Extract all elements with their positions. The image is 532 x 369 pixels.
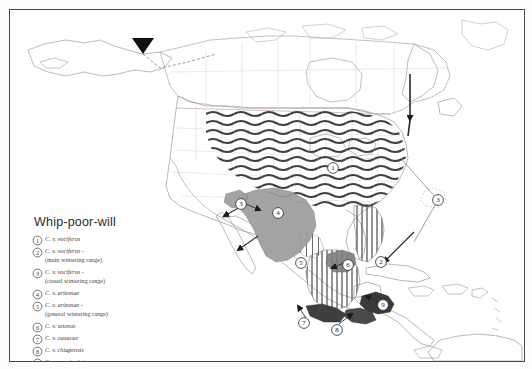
legend-label-4: C. v. arizonae: [45, 289, 79, 298]
legend-label-8: C. v. chiapensis: [45, 346, 84, 355]
legend-sublabel-2: (main wintering range): [45, 256, 102, 265]
legend-number-circle-2: 2: [32, 248, 45, 257]
map-marker-6: 6: [343, 260, 354, 271]
svg-text:4: 4: [36, 292, 39, 298]
legend-number-circle-5: 5: [32, 302, 45, 311]
map-marker-3b: 3: [236, 199, 247, 210]
legend-item-9: 9C. v. vermiculatus: [32, 358, 182, 362]
map-marker-label-9: 9: [381, 301, 385, 309]
legend-label-5: C. v. arizonae -(general wintering range…: [45, 301, 108, 318]
legend-label-2: C. v. vociferus -(main wintering range): [45, 247, 102, 264]
legend-title: Whip-poor-will: [34, 215, 182, 229]
map-marker-label-3b: 3: [239, 200, 243, 208]
map-marker-label-3: 3: [436, 196, 440, 204]
map-marker-label-1: 1: [331, 164, 335, 172]
map-marker-label-2: 2: [379, 258, 383, 266]
svg-text:3: 3: [36, 271, 39, 277]
legend-number-circle-1: 1: [32, 236, 45, 245]
map-marker-label-7: 7: [302, 319, 306, 327]
svg-text:7: 7: [36, 337, 39, 343]
map-marker-4: 4: [273, 208, 284, 219]
legend-item-3: 3C. v. vociferus -(casual wintering rang…: [32, 268, 182, 288]
legend-label-3: C. v. vociferus -(casual wintering range…: [45, 268, 105, 285]
legend-label-6: C. v. setosus: [45, 322, 75, 331]
svg-text:5: 5: [36, 304, 39, 310]
map-marker-9: 9: [378, 300, 389, 311]
legend-item-7: 7C. v. oaxacae: [32, 334, 182, 345]
legend-item-2: 2C. v. vociferus -(main wintering range): [32, 247, 182, 267]
map-marker-label-5: 5: [299, 259, 303, 267]
legend-number-circle-9: 9: [32, 359, 45, 362]
legend-label-9: C. v. vermiculatus: [45, 358, 90, 362]
svg-text:1: 1: [36, 238, 39, 244]
map-marker-1: 1: [328, 163, 339, 174]
whip-poor-will-range-map: 1234567893 Whip-poor-will 1C. v. vocifer…: [0, 0, 532, 369]
map-marker-2: 2: [376, 257, 387, 268]
map-marker-label-8: 8: [335, 326, 339, 334]
legend-number-circle-8: 8: [32, 347, 45, 356]
map-marker-3: 3: [433, 195, 444, 206]
svg-text:9: 9: [36, 361, 39, 362]
map-marker-label-4: 4: [276, 209, 280, 217]
map-legend: Whip-poor-will 1C. v. vociferus2C. v. vo…: [32, 215, 182, 362]
svg-text:8: 8: [36, 349, 39, 355]
legend-sublabel-5: (general wintering range): [45, 310, 108, 319]
legend-number-circle-4: 4: [32, 290, 45, 299]
legend-item-list: 1C. v. vociferus2C. v. vociferus -(main …: [32, 235, 182, 362]
legend-number-circle-7: 7: [32, 335, 45, 344]
map-marker-8: 8: [332, 325, 343, 336]
legend-item-4: 4C. v. arizonae: [32, 289, 182, 300]
map-marker-5: 5: [296, 258, 307, 269]
svg-text:6: 6: [36, 325, 39, 331]
map-marker-7: 7: [299, 318, 310, 329]
map-marker-label-6: 6: [346, 261, 350, 269]
legend-item-6: 6C. v. setosus: [32, 322, 182, 333]
legend-item-8: 8C. v. chiapensis: [32, 346, 182, 357]
svg-text:2: 2: [36, 250, 39, 256]
legend-number-circle-6: 6: [32, 323, 45, 332]
legend-number-circle-3: 3: [32, 269, 45, 278]
legend-sublabel-3: (casual wintering range): [45, 277, 105, 286]
legend-label-7: C. v. oaxacae: [45, 334, 78, 343]
legend-item-1: 1C. v. vociferus: [32, 235, 182, 246]
legend-item-5: 5C. v. arizonae -(general wintering rang…: [32, 301, 182, 321]
legend-label-1: C. v. vociferus: [45, 235, 80, 244]
map-frame: 1234567893 Whip-poor-will 1C. v. vocifer…: [9, 9, 525, 362]
